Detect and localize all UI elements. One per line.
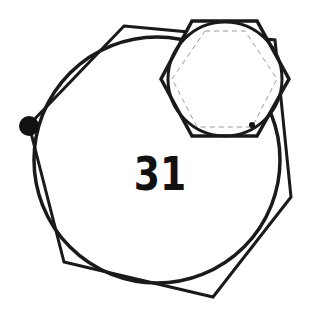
small-dot-marker [249, 122, 255, 128]
number-label: 31 [134, 147, 186, 201]
geometry-diagram: 31 [0, 0, 312, 318]
large-dot-marker [19, 116, 39, 136]
